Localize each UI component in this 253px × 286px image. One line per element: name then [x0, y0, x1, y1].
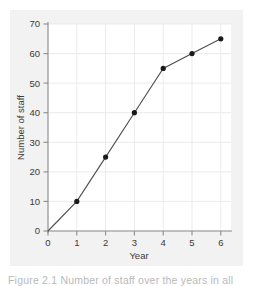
y-tick-label: 0 — [35, 225, 40, 236]
figure-container: 0 10 20 30 40 50 60 70 0 1 2 3 4 5 6 Yea… — [0, 0, 253, 286]
x-tick-label: 3 — [132, 237, 137, 248]
line-chart: 0 10 20 30 40 50 60 70 0 1 2 3 4 5 6 Yea… — [10, 10, 243, 266]
x-tick-label: 6 — [218, 237, 223, 248]
x-axis-ticks — [48, 231, 221, 236]
y-tick-label: 30 — [29, 137, 40, 148]
chart-canvas: 0 10 20 30 40 50 60 70 0 1 2 3 4 5 6 Yea… — [10, 10, 243, 266]
data-point-marker — [161, 66, 166, 71]
figure-caption: Figure 2.1 Number of staff over the year… — [8, 274, 253, 286]
y-tick-label: 20 — [29, 166, 40, 177]
y-tick-label: 40 — [29, 107, 40, 118]
data-point-marker — [189, 51, 194, 56]
y-axis-title: Number of staff — [15, 95, 26, 160]
y-tick-labels: 0 10 20 30 40 50 60 70 — [29, 18, 40, 236]
x-tick-labels: 0 1 2 3 4 5 6 — [45, 237, 223, 248]
x-tick-label: 5 — [189, 237, 194, 248]
y-tick-label: 50 — [29, 78, 40, 89]
data-point-marker — [218, 36, 223, 41]
x-tick-label: 0 — [45, 237, 50, 248]
x-tick-label: 4 — [161, 237, 166, 248]
data-point-marker — [103, 155, 108, 160]
x-axis-title: Year — [129, 250, 148, 261]
y-axis-ticks — [44, 24, 49, 231]
x-tick-label: 1 — [74, 237, 79, 248]
y-tick-label: 10 — [29, 196, 40, 207]
x-tick-label: 2 — [103, 237, 108, 248]
y-tick-label: 70 — [29, 18, 40, 29]
data-point-marker — [74, 199, 79, 204]
data-point-marker — [132, 110, 137, 115]
y-tick-label: 60 — [29, 48, 40, 59]
